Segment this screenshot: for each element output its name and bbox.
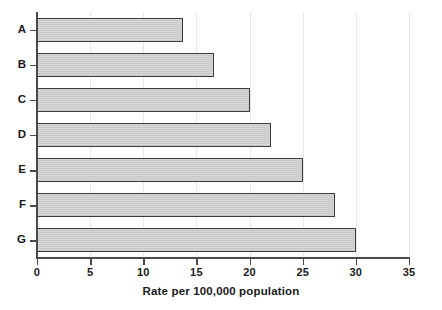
y-tick-label-c: C [0,93,26,105]
x-tick [356,259,357,265]
y-tick [30,100,36,101]
bar-a [37,18,183,42]
bar-c [37,88,250,112]
y-tick [30,135,36,136]
y-tick [30,65,36,66]
y-tick-label-b: B [0,58,26,70]
bar-b [37,53,214,77]
x-tick-label: 5 [70,266,110,278]
x-tick [250,259,251,265]
gridline [356,12,357,258]
gridline [303,12,304,258]
y-tick [30,205,36,206]
bar-chart: 05101520253035 ABCDEFG Rate per 100,000 … [0,0,442,310]
plot-area [37,12,409,258]
x-tick [409,259,410,265]
y-tick-label-g: G [0,233,26,245]
x-axis-title: Rate per 100,000 population [0,285,442,297]
y-axis-line [36,12,38,259]
x-axis-line [36,257,410,259]
y-tick [30,170,36,171]
y-tick-label-f: F [0,198,26,210]
x-tick-label: 30 [336,266,376,278]
x-tick-label: 20 [230,266,270,278]
x-tick [303,259,304,265]
x-tick [143,259,144,265]
x-tick-label: 10 [123,266,163,278]
bar-d [37,123,271,147]
x-tick-label: 15 [176,266,216,278]
x-tick [90,259,91,265]
y-tick-label-d: D [0,128,26,140]
y-tick-label-e: E [0,163,26,175]
bar-f [37,193,335,217]
x-tick-label: 0 [17,266,57,278]
x-tick [37,259,38,265]
y-tick-label-a: A [0,23,26,35]
x-tick [196,259,197,265]
gridline [409,12,410,258]
x-tick-label: 25 [283,266,323,278]
x-tick-label: 35 [389,266,429,278]
bar-g [37,228,356,252]
y-tick [30,240,36,241]
bar-e [37,158,303,182]
y-tick [30,30,36,31]
